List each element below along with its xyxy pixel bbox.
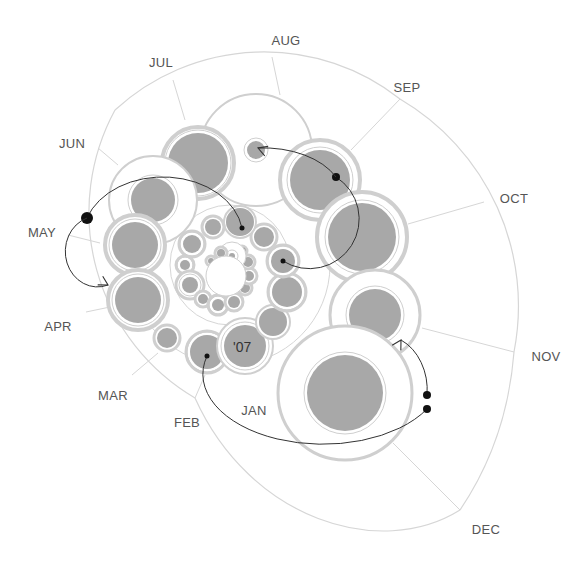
bubble [154, 325, 180, 351]
connector [65, 218, 110, 289]
connector-end-dot [240, 226, 245, 231]
sector-line [98, 148, 118, 165]
bubble-fill [205, 219, 221, 235]
bubble [268, 273, 306, 311]
bubble-fill [259, 308, 287, 336]
connector-end-dot [281, 259, 286, 264]
month-label-dec: DEC [472, 522, 500, 537]
sector-line [351, 99, 400, 150]
month-label-feb: FEB [174, 415, 200, 430]
connector-end-dot [205, 354, 210, 359]
bubble-fill [328, 203, 396, 271]
month-label-jun: JUN [59, 136, 85, 151]
bubble [206, 256, 246, 296]
sector-line [68, 235, 100, 243]
month-label-oct: OCT [500, 191, 528, 206]
bubble [317, 192, 407, 282]
sector-line [86, 307, 110, 312]
bubble [108, 270, 168, 330]
bubble-fill [182, 277, 198, 293]
bubble-fill [183, 235, 201, 253]
bubble [278, 326, 412, 460]
bubble [179, 231, 205, 257]
bubble-fill [212, 299, 224, 311]
connector-start-dot [423, 405, 431, 413]
bubble-fill [272, 277, 302, 307]
sector-line [272, 57, 280, 95]
sector-line [173, 80, 185, 120]
month-label-mar: MAR [98, 388, 128, 403]
month-label-may: MAY [28, 225, 56, 240]
bubble [105, 215, 165, 275]
month-label-jul: JUL [149, 55, 173, 70]
month-label-sep: SEP [394, 80, 421, 95]
year-label: '07 [233, 339, 251, 355]
sector-line [408, 202, 484, 224]
month-label-nov: NOV [531, 349, 560, 364]
bubble-fill [198, 294, 208, 304]
bubble-outer-ring [206, 256, 246, 296]
sector-line [393, 443, 460, 510]
sector-line [132, 353, 158, 375]
bubble-fill [307, 355, 383, 431]
bubble-fill [228, 296, 240, 308]
sector-line [422, 328, 514, 352]
month-label-jan: JAN [241, 403, 266, 418]
month-label-apr: APR [44, 319, 72, 334]
bubble [202, 216, 224, 238]
month-label-aug: AUG [271, 33, 300, 48]
bubble-fill [254, 227, 274, 247]
connector-start-dot [423, 391, 431, 399]
bubble-fill [247, 141, 265, 159]
spiral-bubble-chart: AUGJULSEPJUNOCTMAYAPRNOVMARFEBJANDEC '07 [0, 0, 584, 569]
bubble-fill [180, 260, 190, 270]
connector-arc [65, 218, 108, 287]
bubble-fill [112, 222, 158, 268]
bubble-fill [157, 328, 177, 348]
bubble-fill [115, 277, 161, 323]
